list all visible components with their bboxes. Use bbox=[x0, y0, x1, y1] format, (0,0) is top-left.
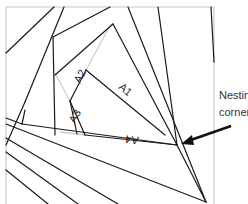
piece-label-a1: A1 bbox=[117, 80, 135, 98]
arrow-left-icon bbox=[181, 126, 231, 145]
piece-label-a4: A4 bbox=[124, 133, 139, 147]
piece-label-a3: A3 bbox=[66, 107, 83, 125]
annotation-line-2: corner bbox=[219, 106, 248, 118]
piecing-lines bbox=[6, 7, 214, 204]
annotation-line-1: Nestin bbox=[219, 89, 248, 101]
foundation-piecing-diagram: A1 A2 A3 A4 bbox=[0, 0, 248, 204]
